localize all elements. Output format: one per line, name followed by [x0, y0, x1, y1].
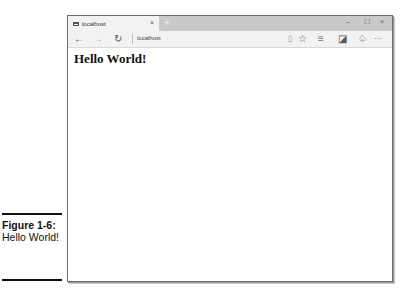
caption-bottom-rule — [2, 279, 62, 281]
page-content: Hello World! — [68, 48, 392, 281]
close-tab-icon[interactable]: × — [150, 19, 154, 26]
favorite-icon[interactable]: ☆ — [298, 33, 307, 45]
address-separator — [132, 34, 133, 44]
forward-icon[interactable]: → — [93, 33, 103, 45]
figure-caption: Figure 1-6: Hello World! — [2, 219, 59, 243]
minimize-icon[interactable]: – — [346, 18, 350, 25]
page-heading: Hello World! — [74, 51, 146, 67]
share-icon[interactable]: ♤ — [358, 33, 367, 45]
new-tab-icon[interactable]: + — [164, 17, 170, 28]
browser-window: localhost × + – ☐ × ← → ↻ localhost ▯ ☆ … — [67, 15, 393, 282]
more-icon[interactable]: ··· — [374, 33, 382, 45]
back-icon[interactable]: ← — [74, 33, 84, 45]
reading-view-icon[interactable]: ▯ — [288, 33, 292, 45]
tab-bar: localhost × + – ☐ × — [68, 16, 392, 31]
web-note-icon[interactable]: ◪ — [338, 33, 347, 45]
caption-top-rule — [2, 213, 62, 215]
caption-label: Figure 1-6: — [2, 219, 56, 231]
toolbar: ← → ↻ localhost ▯ ☆ ≡ ◪ ♤ ··· — [68, 31, 392, 48]
close-window-icon[interactable]: × — [380, 18, 384, 25]
hub-icon[interactable]: ≡ — [318, 33, 324, 45]
page-icon — [73, 22, 79, 26]
caption-text: Hello World! — [2, 231, 59, 243]
tab-title: localhost — [82, 21, 106, 27]
refresh-icon[interactable]: ↻ — [114, 33, 122, 45]
address-bar[interactable]: localhost — [137, 35, 161, 41]
maximize-icon[interactable]: ☐ — [364, 18, 370, 26]
tab-localhost[interactable]: localhost × — [68, 16, 159, 31]
